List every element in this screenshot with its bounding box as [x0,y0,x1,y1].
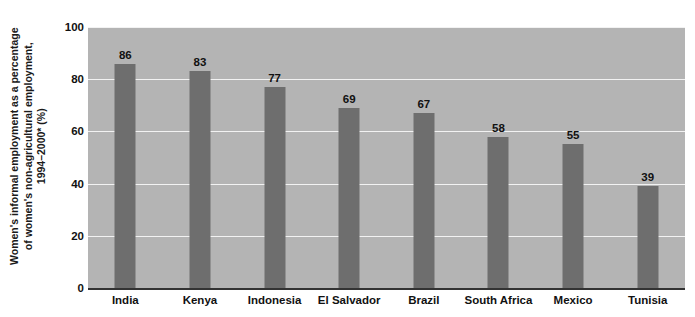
bar-value-label: 39 [641,171,654,183]
bar[interactable] [189,71,210,288]
bar-value-label: 86 [119,49,132,61]
bar[interactable] [264,87,285,288]
x-axis-tick-label: Mexico [554,293,593,307]
bar-group[interactable]: 55 [536,27,611,288]
y-axis-title-line-2: of women's non-agricultural employment, [22,27,36,264]
bar[interactable] [488,137,509,288]
bar-group[interactable]: 67 [387,27,462,288]
bar-value-label: 58 [492,122,505,134]
bar-value-label: 77 [268,72,281,84]
x-axis-tick-label: South Africa [464,293,532,307]
x-axis-tick-label: Brazil [408,293,439,307]
bar-group[interactable]: 69 [312,27,387,288]
y-axis-tick-label: 40 [56,178,84,190]
x-axis-tick-label: India [112,293,139,307]
y-axis-title-line-1: Women's informal employment as a percent… [9,27,23,264]
plot-area: 8683776967585539 [88,27,685,288]
bars-layer: 8683776967585539 [88,27,685,288]
x-axis-tick-labels: IndiaKenyaIndonesiaEl SalvadorBrazilSout… [88,291,685,313]
bar-group[interactable]: 39 [610,27,685,288]
bar[interactable] [413,113,434,288]
bar[interactable] [339,108,360,288]
x-axis-tick-label: Kenya [183,293,218,307]
bar-group[interactable]: 83 [163,27,238,288]
x-axis-tick-label: Tunisia [628,293,667,307]
y-axis-tick-label: 60 [56,125,84,137]
bar-chart-figure: Women's informal employment as a percent… [0,0,695,317]
y-axis-tick-label: 100 [56,21,84,33]
bar-value-label: 83 [194,56,207,68]
x-axis-tick-label: El Salvador [318,293,381,307]
bar-group[interactable]: 77 [237,27,312,288]
bar-group[interactable]: 58 [461,27,536,288]
y-axis-title: Women's informal employment as a percent… [0,0,58,292]
y-axis-title-line-3: 1994–2000* (%) [36,27,50,264]
y-axis-tick-label: 20 [56,230,84,242]
bar-group[interactable]: 86 [88,27,163,288]
y-axis-tick-label: 80 [56,73,84,85]
bar-value-label: 69 [343,93,356,105]
bar[interactable] [115,64,136,288]
bar[interactable] [637,186,658,288]
bar[interactable] [563,144,584,288]
y-axis-tick-labels: 020406080100 [56,0,84,317]
y-axis-tick-label: 0 [56,282,84,294]
bar-value-label: 67 [417,98,430,110]
bar-value-label: 55 [567,129,580,141]
x-axis-tick-label: Indonesia [248,293,302,307]
x-axis-line [88,288,685,290]
